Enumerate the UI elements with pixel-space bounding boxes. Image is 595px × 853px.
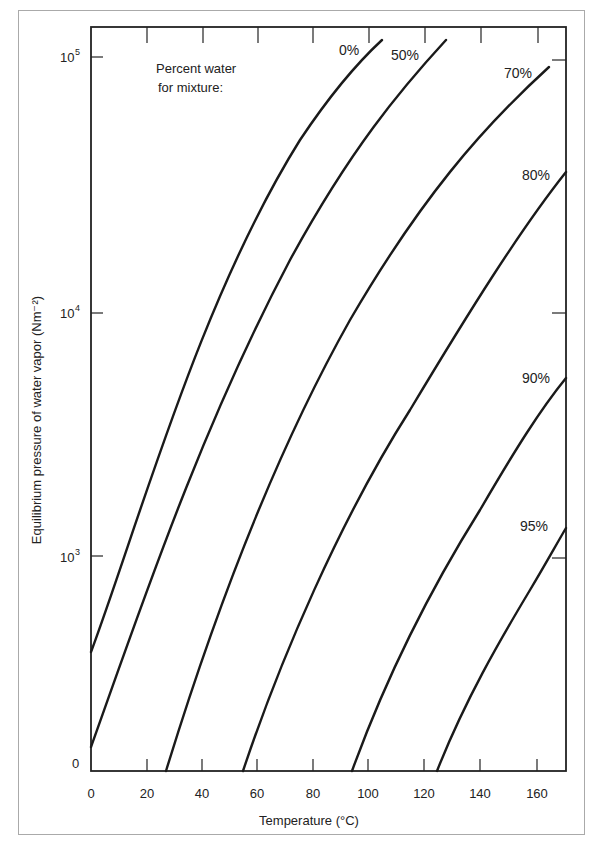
legend-title-line1: Percent water <box>156 61 237 76</box>
curve-80-percent <box>243 172 566 771</box>
svg-text:10: 10 <box>60 550 74 565</box>
svg-text:100: 100 <box>357 786 379 801</box>
label-90-percent: 90% <box>522 370 550 386</box>
svg-text:4: 4 <box>75 303 80 313</box>
svg-text:3: 3 <box>75 547 80 557</box>
label-70-percent: 70% <box>504 65 532 81</box>
y-tick-label-1e4: 10 4 <box>60 303 80 321</box>
legend-title-line2: for mixture: <box>158 80 223 95</box>
curve-0-percent <box>91 40 382 652</box>
curve-50-percent <box>91 40 446 747</box>
curve-70-percent <box>166 67 549 771</box>
svg-text:5: 5 <box>75 47 80 57</box>
y-tick-label-1e3: 10 3 <box>60 547 80 565</box>
svg-text:10: 10 <box>60 50 74 65</box>
svg-text:160: 160 <box>526 786 548 801</box>
plot-frame <box>91 27 566 771</box>
x-ticks-top <box>147 27 538 43</box>
label-95-percent: 95% <box>520 518 548 534</box>
curve-95-percent <box>437 528 566 771</box>
curves <box>91 40 566 771</box>
y-tick-label-1e5: 10 5 <box>60 47 80 65</box>
y-axis-label: Equilibrium pressure of water vapor (Nm⁻… <box>29 296 44 544</box>
label-80-percent: 80% <box>522 167 550 183</box>
y-ticks-right <box>552 60 566 558</box>
label-50-percent: 50% <box>391 47 419 63</box>
svg-text:0: 0 <box>87 786 94 801</box>
x-tick-labels: 0 20 40 60 80 100 120 140 160 <box>87 786 547 801</box>
label-0-percent: 0% <box>339 42 359 58</box>
svg-text:140: 140 <box>469 786 491 801</box>
chart: 0% 50% 70% 80% 90% 95% Percent water for… <box>0 0 595 853</box>
curve-90-percent <box>352 378 566 771</box>
y-tick-label-0: 0 <box>72 756 79 771</box>
y-ticks-left <box>91 57 103 556</box>
svg-text:120: 120 <box>413 786 435 801</box>
svg-text:20: 20 <box>140 786 154 801</box>
svg-text:10: 10 <box>60 306 74 321</box>
svg-text:60: 60 <box>250 786 264 801</box>
svg-text:40: 40 <box>195 786 209 801</box>
x-axis-label: Temperature (°C) <box>259 813 359 828</box>
svg-text:80: 80 <box>306 786 320 801</box>
x-ticks-bottom <box>147 759 537 771</box>
